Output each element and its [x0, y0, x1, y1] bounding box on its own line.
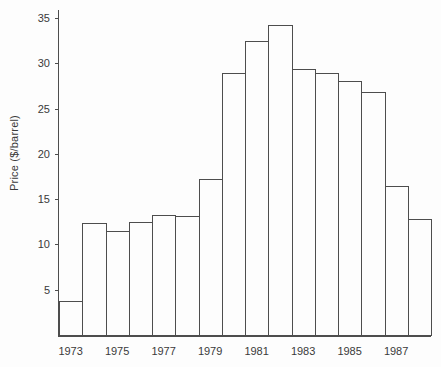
bar-1982 [268, 25, 292, 337]
y-tick-mark [55, 154, 59, 155]
y-tick-label: 35 [38, 12, 50, 25]
y-tick-label: 30 [38, 57, 50, 70]
oil-price-bar-chart: Price ($/barrel) 51015202530351973197519… [0, 0, 441, 367]
x-tick-label: 1985 [337, 345, 361, 357]
bar-1978 [175, 216, 199, 336]
bar-1985 [338, 81, 362, 336]
bar-1986 [361, 92, 385, 337]
y-tick-mark [55, 199, 59, 200]
x-tick-label: 1977 [151, 345, 175, 357]
x-tick-label: 1973 [58, 345, 82, 357]
y-tick-label: 20 [38, 148, 50, 161]
y-tick-mark [55, 18, 59, 19]
bar-1975 [106, 231, 130, 336]
y-tick-mark [55, 63, 59, 64]
y-tick-label: 5 [44, 284, 50, 297]
bar-1976 [129, 222, 153, 336]
bar-1980 [222, 73, 246, 336]
x-tick-label: 1983 [291, 345, 315, 357]
bar-1981 [245, 41, 269, 336]
bar-1988 [408, 219, 432, 336]
y-tick-label: 10 [38, 238, 50, 251]
y-axis-label: Price ($/barrel) [8, 115, 20, 191]
y-tick-mark [55, 290, 59, 291]
x-tick-label: 1975 [105, 345, 129, 357]
bar-1979 [199, 179, 223, 336]
bar-1987 [385, 186, 409, 336]
y-tick-mark [55, 244, 59, 245]
y-tick-label: 25 [38, 103, 50, 116]
bar-1984 [315, 73, 339, 336]
x-tick-label: 1979 [198, 345, 222, 357]
y-tick-mark [55, 109, 59, 110]
x-tick-label: 1987 [384, 345, 408, 357]
plot-area: 5101520253035197319751977197919811983198… [58, 10, 431, 337]
bar-1983 [292, 69, 316, 336]
bar-1973 [59, 301, 83, 336]
x-tick-label: 1981 [244, 345, 268, 357]
bar-1977 [152, 215, 176, 336]
y-tick-label: 15 [38, 193, 50, 206]
bar-1974 [82, 223, 106, 336]
